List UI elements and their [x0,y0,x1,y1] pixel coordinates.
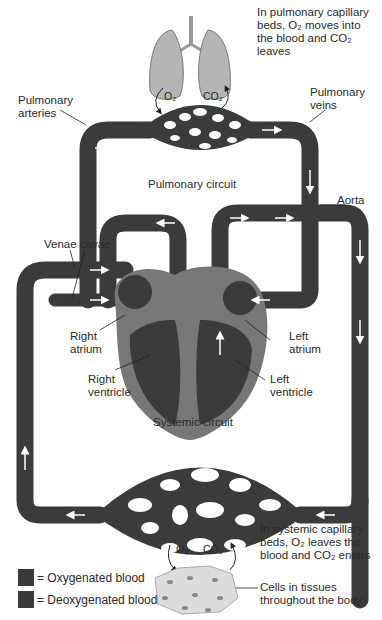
label-line: ventricle [270,386,313,399]
lung-o2-label: O₂ [164,90,176,103]
pulmonary-capillary-bed [140,105,262,150]
pulmonary-veins-label: Pulmonary veins [310,86,365,112]
note-line: In pulmonary capillary [257,6,369,19]
note-line: leaves [257,45,369,58]
note-line: In systemic capillary [260,523,371,536]
deoxygenated-swatch [18,591,34,608]
left-atrium-label: Left atrium [289,330,321,356]
cells-label: Cells in tissues throughout the body [260,581,362,607]
legend-label: = Oxygenated blood [37,571,145,585]
left-ventricle-label: Left ventricle [270,373,313,399]
systemic-circuit-label: Systemic circuit [153,416,233,429]
label-line: Cells in tissues [260,581,362,594]
aorta-label: Aorta [337,194,365,207]
label-line: Left [270,373,313,386]
pulmonary-capillary-note: In pulmonary capillary beds, O₂ moves in… [257,6,369,58]
pulmonary-arteries-label: Pulmonary arteries [18,94,73,120]
tissue-o2-label: O₂ [176,543,188,556]
right-atrium-label: Right atrium [70,330,102,356]
label-line: Pulmonary [310,86,365,99]
legend-deoxygenated: = Deoxygenated blood [18,591,157,608]
legend-label: = Deoxygenated blood [37,593,157,607]
label-line: arteries [18,107,73,120]
venae-cavae-label: Venae cavae [44,238,111,251]
note-line: blood and CO₂ enters [260,549,371,562]
label-line: Left [289,330,321,343]
right-ventricle-label: Right ventricle [88,373,131,399]
label-line: Right [88,373,131,386]
label-line: Pulmonary [18,94,73,107]
lungs-icon [150,16,231,99]
systemic-capillary-note: In systemic capillary beds, O₂ leaves th… [260,523,371,562]
lung-co2-label: CO₂ [203,90,223,103]
note-line: the blood and CO₂ [257,32,369,45]
oxygenated-swatch [18,569,34,586]
label-line: atrium [289,343,321,356]
label-line: throughout the body [260,594,362,607]
label-line: veins [310,99,365,112]
label-line: ventricle [88,386,131,399]
pulmonary-circuit-label: Pulmonary circuit [148,178,236,191]
tissue-co2-label: CO₂ [203,543,223,556]
note-line: beds, O₂ moves into [257,19,369,32]
note-line: beds, O₂ leaves the [260,536,371,549]
legend-oxygenated: = Oxygenated blood [18,569,145,586]
label-line: Right [70,330,102,343]
heart-icon [115,267,268,440]
label-line: atrium [70,343,102,356]
tissue-cells-icon [155,566,238,614]
